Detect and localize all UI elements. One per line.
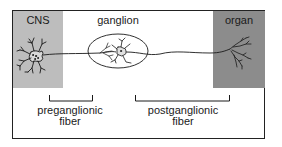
preganglionic-fiber-label: preganglionic fiber: [30, 105, 110, 127]
preganglionic-bracket: [50, 95, 93, 101]
postganglionic-bracket: [136, 95, 230, 101]
ganglion-label: ganglion: [93, 15, 143, 26]
organ-nerve-ending-icon: [230, 37, 251, 69]
postganglionic-fiber-line: [126, 49, 230, 55]
ganglion-neuron-icon: [111, 38, 131, 63]
postganglionic-fiber-label: postganglionic fiber: [140, 105, 226, 127]
postganglionic-label-line2: fiber: [140, 116, 226, 127]
cns-label: CNS: [13, 15, 63, 26]
cns-neuron-icon: [17, 38, 46, 73]
preganglionic-label-line2: fiber: [30, 116, 110, 127]
organ-label: organ: [213, 15, 265, 26]
